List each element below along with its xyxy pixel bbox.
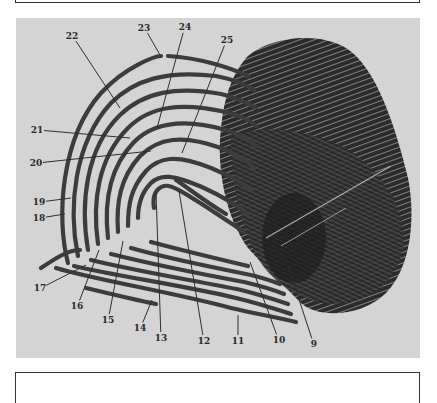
callout-label-12: 12 — [198, 337, 211, 346]
callout-label-23: 23 — [138, 24, 151, 33]
inked-fingerprint — [220, 38, 412, 313]
callout-label-24: 24 — [179, 23, 192, 32]
callout-label-22: 22 — [66, 32, 79, 41]
callout-label-20: 20 — [30, 159, 43, 168]
leader-line-19 — [46, 198, 71, 201]
callout-label-21: 21 — [31, 126, 44, 135]
callout-label-19: 19 — [33, 198, 46, 207]
callout-label-25: 25 — [221, 36, 234, 45]
callout-label-17: 17 — [34, 284, 47, 293]
callout-label-18: 18 — [33, 214, 46, 223]
fingerprint-figure-panel: 910111213141516171819202122232425 — [16, 18, 420, 358]
leader-line-24 — [157, 33, 183, 128]
callout-label-10: 10 — [273, 336, 286, 345]
lower-frame-box — [15, 372, 420, 403]
callout-label-15: 15 — [102, 316, 115, 325]
leader-line-13 — [156, 192, 161, 332]
callout-label-16: 16 — [71, 302, 84, 311]
callout-label-9: 9 — [311, 340, 317, 349]
callout-label-11: 11 — [232, 337, 245, 346]
leader-line-23 — [148, 33, 160, 55]
callout-label-14: 14 — [134, 324, 147, 333]
callout-label-13: 13 — [155, 334, 168, 343]
upper-frame-box — [15, 0, 420, 3]
